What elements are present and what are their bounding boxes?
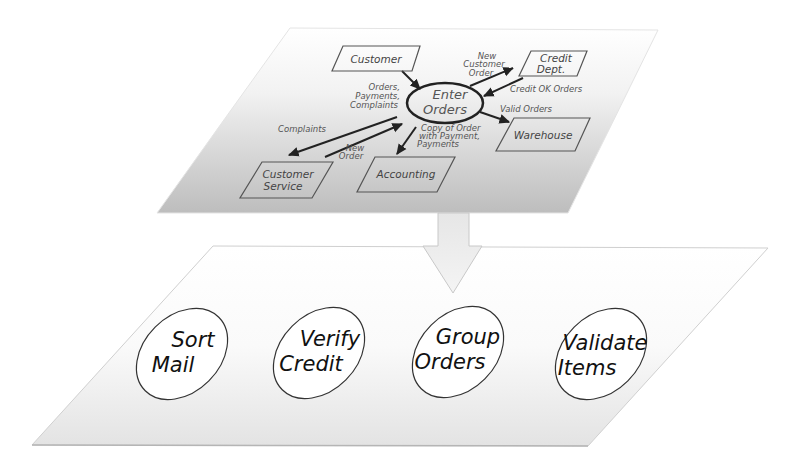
process-group-orders-label-line1: Group [436,325,500,349]
process-validate-items-label-line1: Validate [563,331,648,355]
process-verify-credit-label-line1: Verify [300,327,361,351]
flow-label-line: Valid Orders [500,104,553,114]
process-group-orders-label-line2: Orders [415,350,486,374]
process-sort-mail-label-line1: Sort [171,328,215,352]
top-layer-plane [157,28,658,213]
process-sort-mail-label-line2: Mail [152,353,195,377]
flow-label-line: Complaints [278,124,326,134]
bottom-layer-bottom-edge [32,445,588,446]
flow-label-credit-ok-orders: Credit OK Orders [510,84,583,94]
flow-label-line: Complaints [350,100,398,110]
entity-accounting-label: Accounting [376,168,436,180]
entity-customer-service-label-line2: Service [264,180,303,192]
bottom-layer: Sort Mail Verify Credit Group Orders Val… [32,246,768,446]
entity-warehouse-label: Warehouse [514,129,573,141]
top-layer: Enter Orders Customer Credit Dept. Wareh… [157,28,658,213]
entity-credit-dept-label-line2: Dept. [537,63,566,75]
process-enter-orders-label-line2: Orders [423,102,467,117]
process-verify-credit-label-line2: Credit [279,352,343,376]
flow-label-valid-orders: Valid Orders [500,104,553,114]
process-enter-orders-label-line1: Enter [433,87,470,102]
entity-customer-label: Customer [350,53,402,65]
flow-label-line: Order [339,151,364,161]
flow-label-line: Payments [417,139,460,149]
flow-label-line: Credit OK Orders [510,84,583,94]
entity-customer-service-label-line1: Customer [262,168,314,180]
flow-label-complaints: Complaints [278,124,326,134]
flow-label-line: Order [469,68,494,78]
layered-dfd-diagram: Enter Orders Customer Credit Dept. Wareh… [0,0,796,473]
process-validate-items-label-line2: Items [558,356,617,380]
